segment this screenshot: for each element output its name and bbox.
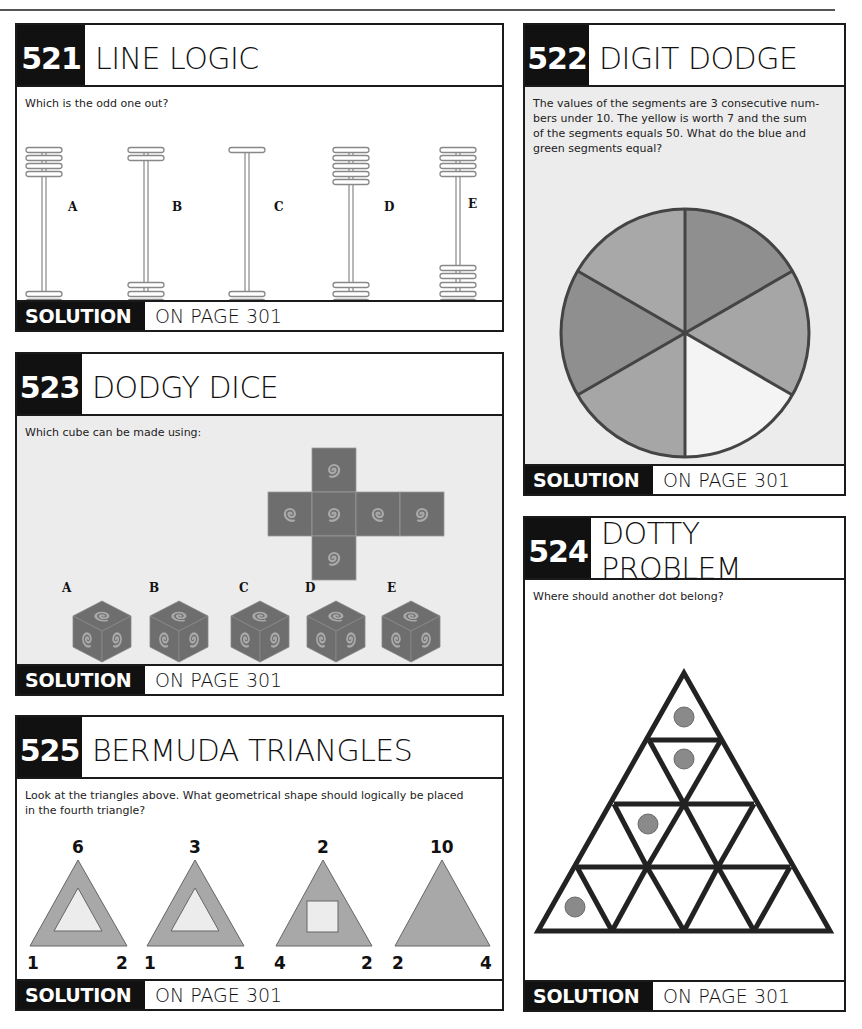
svg-text:10: 10 [430,837,454,857]
dot [674,749,694,769]
puzzle-title: DIGIT DODGE [589,25,797,85]
figure-c [229,148,265,305]
solution-label: SOLUTION [17,666,145,694]
solution-bar: SOLUTION ON PAGE 301 [17,300,502,330]
segment-circle [525,87,844,467]
puzzle-number: 521 [17,25,85,85]
figure-e [440,148,476,305]
puzzle-number: 522 [525,25,589,85]
bermuda-triangles: 6 1 2 3 1 1 2 4 2 10 2 4 [17,779,502,979]
svg-text:E: E [387,581,396,595]
svg-text:6: 6 [72,837,84,857]
puzzle-522-panel: 522 DIGIT DODGE The values of the segmen… [523,23,846,496]
puzzle-title: DODGY DICE [82,354,278,414]
puzzle-number: 525 [17,717,82,777]
triangle-2: 3 1 1 [144,837,245,973]
solution-page-link[interactable]: ON PAGE 301 [145,666,282,694]
puzzle-title: LINE LOGIC [85,25,259,85]
solution-page-link[interactable]: ON PAGE 301 [653,466,790,494]
puzzle-number: 523 [17,354,82,414]
solution-label: SOLUTION [525,982,653,1010]
puzzle-header: 522 DIGIT DODGE [525,25,844,87]
svg-text:D: D [305,581,315,595]
figure-b [128,148,164,305]
puzzle-body: Which is the odd one out? A B [17,87,502,300]
svg-text:B: B [172,200,182,214]
svg-text:2: 2 [392,953,404,973]
cube-net [268,448,444,580]
puzzle-body: Where should another dot belong? [525,580,844,980]
dot [674,707,694,727]
svg-text:1: 1 [27,953,39,973]
dice-figures: A B C D E [17,416,502,666]
puzzle-523-panel: 523 DODGY DICE Which cube can be made us… [15,352,504,696]
triangle-1: 6 1 2 [27,837,128,973]
puzzle-body: The values of the segments are 3 consecu… [525,87,844,464]
svg-text:4: 4 [274,953,286,973]
cube-c [231,601,289,662]
puzzle-body: Look at the triangles above. What geomet… [17,779,502,979]
solution-bar: SOLUTION ON PAGE 301 [17,979,502,1009]
solution-bar: SOLUTION ON PAGE 301 [525,464,844,494]
puzzle-number: 524 [525,518,591,578]
puzzle-header: 521 LINE LOGIC [17,25,502,87]
svg-text:4: 4 [480,953,492,973]
solution-page-link[interactable]: ON PAGE 301 [653,982,790,1010]
svg-text:3: 3 [189,837,201,857]
puzzle-title: BERMUDA TRIANGLES [82,717,412,777]
solution-label: SOLUTION [17,302,145,330]
figure-d [333,148,369,305]
dot [638,814,658,834]
solution-label: SOLUTION [525,466,653,494]
puzzle-header: 524 DOTTY PROBLEM [525,518,844,580]
svg-text:2: 2 [361,953,373,973]
svg-text:A: A [67,200,78,214]
svg-text:D: D [384,200,394,214]
svg-text:C: C [274,200,284,214]
svg-text:2: 2 [116,953,128,973]
svg-text:C: C [239,581,249,595]
solution-bar: SOLUTION ON PAGE 301 [525,980,844,1010]
svg-text:B: B [149,581,159,595]
figure-a [26,148,62,305]
triangle-3: 2 4 2 [274,837,373,973]
triangle-4: 10 2 4 [392,837,492,973]
puzzle-525-panel: 525 BERMUDA TRIANGLES Look at the triang… [15,715,504,1011]
solution-label: SOLUTION [17,981,145,1009]
puzzle-body: Which cube can be made using: [17,416,502,664]
cube-b [150,601,208,662]
line-logic-figures: A B C D [17,87,502,300]
svg-text:A: A [61,581,72,595]
puzzle-header: 523 DODGY DICE [17,354,502,416]
dot [565,897,585,917]
cube-d [307,601,365,662]
solution-page-link[interactable]: ON PAGE 301 [145,981,282,1009]
puzzle-title: DOTTY PROBLEM [591,518,844,578]
cube-a [73,601,131,662]
svg-text:1: 1 [233,953,245,973]
solution-page-link[interactable]: ON PAGE 301 [145,302,282,330]
solution-bar: SOLUTION ON PAGE 301 [17,664,502,694]
puzzle-524-panel: 524 DOTTY PROBLEM Where should another d… [523,516,846,1012]
puzzle-header: 525 BERMUDA TRIANGLES [17,717,502,779]
cube-e [382,601,440,662]
dotty-triangle [525,580,844,980]
svg-text:E: E [468,197,477,211]
svg-text:1: 1 [144,953,156,973]
svg-text:2: 2 [317,837,329,857]
puzzle-521-panel: 521 LINE LOGIC Which is the odd one out?… [15,23,504,332]
page-top-rule [0,9,835,11]
